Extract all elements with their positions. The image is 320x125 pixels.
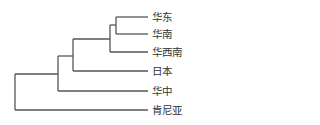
leaf-label-riben: 日本 — [152, 65, 172, 77]
leaf-label-huadong: 华东 — [152, 11, 172, 23]
leaf-label-kenniya: 肯尼亚 — [152, 104, 182, 116]
leaf-label-huazhong: 华中 — [152, 85, 172, 97]
leaf-label-huanan: 华南 — [152, 28, 172, 40]
leaf-label-huaxinan: 华西南 — [152, 46, 182, 58]
